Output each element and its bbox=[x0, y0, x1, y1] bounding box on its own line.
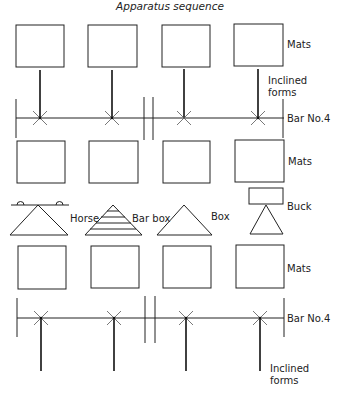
mat bbox=[234, 24, 283, 66]
inclined-forms-label-line1: Inclined bbox=[268, 75, 307, 86]
bar-label: Bar No.4 bbox=[287, 313, 330, 324]
horse-label: Horse bbox=[70, 213, 99, 224]
mats-row-2: Mats bbox=[17, 140, 312, 183]
mat bbox=[235, 140, 284, 182]
mat bbox=[88, 25, 137, 67]
apparatus-diagram: Apparatus sequence Mats Inclined forms bbox=[0, 0, 341, 393]
mats-row-1: Mats bbox=[16, 24, 311, 67]
mat bbox=[16, 25, 64, 67]
inclined-forms-bottom: Inclined forms bbox=[41, 318, 309, 386]
mats-row-3: Mats bbox=[18, 245, 311, 289]
bar-top: Bar No.4 bbox=[16, 97, 330, 140]
mat bbox=[163, 246, 211, 288]
mats-label: Mats bbox=[288, 156, 312, 167]
horse-icon bbox=[10, 202, 69, 236]
mats-label: Mats bbox=[287, 39, 311, 50]
mats-label: Mats bbox=[287, 263, 311, 274]
box-label: Box bbox=[211, 211, 230, 222]
diagram-title: Apparatus sequence bbox=[115, 0, 224, 12]
inclined-forms-top: Inclined forms bbox=[40, 69, 307, 118]
buck-label: Buck bbox=[287, 201, 312, 212]
bar-bottom: Bar No.4 bbox=[17, 296, 330, 343]
bar-box-label: Bar box bbox=[132, 213, 170, 224]
inclined-forms-label-line2: forms bbox=[268, 87, 297, 98]
mat bbox=[18, 246, 66, 289]
buck-icon bbox=[249, 188, 283, 234]
mat bbox=[91, 246, 139, 288]
mat bbox=[89, 141, 138, 183]
mat bbox=[17, 141, 65, 183]
mat bbox=[162, 25, 210, 67]
inclined-forms-label-line1: Inclined bbox=[270, 363, 309, 374]
bar-label: Bar No.4 bbox=[287, 113, 330, 124]
inclined-forms-label-line2: forms bbox=[270, 375, 299, 386]
mat bbox=[236, 245, 284, 288]
apparatus-row: Horse Bar box Box Buck bbox=[10, 188, 312, 235]
mat bbox=[163, 141, 210, 183]
